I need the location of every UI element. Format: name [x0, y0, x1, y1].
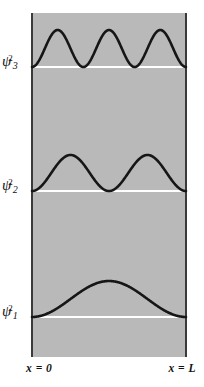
plot-area	[31, 13, 187, 357]
label-psi1-squared: ψ21	[2, 304, 18, 321]
axis-label-x-equals-0: x = 0	[26, 362, 52, 374]
particle-in-a-box-figure: ψ23 ψ22 ψ21 x = 0 x = L	[0, 0, 204, 387]
psi2-subscript: 2	[13, 184, 18, 195]
psi3-subscript: 3	[13, 60, 18, 71]
label-psi2-squared: ψ22	[2, 178, 18, 195]
label-psi3-squared: ψ23	[2, 54, 18, 71]
curve-psi1	[32, 281, 186, 317]
wavefunction-curves	[31, 13, 187, 357]
axis-label-x-equals-L: x = L	[168, 362, 196, 374]
curve-psi3	[32, 30, 186, 67]
psi1-subscript: 1	[13, 310, 18, 321]
curve-psi2	[32, 155, 186, 191]
